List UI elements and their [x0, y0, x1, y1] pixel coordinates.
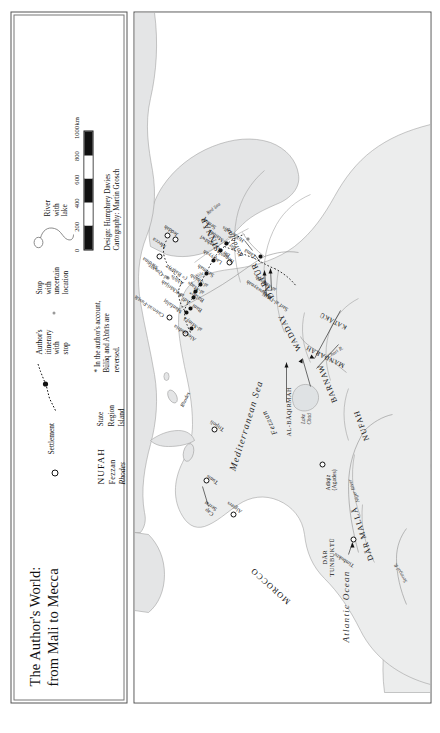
- legend-label-region: Region: [107, 405, 116, 426]
- legend-label-uncertain-stop: Stop with uncertain location: [35, 267, 70, 295]
- legend-sample-region: Fezzan: [107, 459, 116, 484]
- scale-tick-1000: 1000: [72, 125, 79, 138]
- itinerary-dot-manfalut: [184, 310, 188, 314]
- legend-sample-island: Rhodes: [117, 462, 126, 484]
- settlement-circle-icon: [51, 469, 58, 476]
- map-title: The Author's World: from Mali to Mecca: [25, 506, 61, 686]
- itinerary-line-with-stop-icon: [35, 360, 60, 412]
- legend-panel: The Author's World: from Mali to Mecca S…: [10, 11, 127, 703]
- settlement-label-adiqiz: Adīqiz (Agades): [324, 469, 337, 490]
- state-label-al-baqirmah: AL-BĀQIRMAH: [284, 387, 291, 437]
- legend-label-state: State: [96, 411, 105, 426]
- uncertain-dot-icon: [52, 311, 55, 314]
- scale-bar: [83, 130, 93, 250]
- settlement-dot-cairo: [166, 314, 172, 320]
- settlement-dot-timbuktu: [350, 536, 356, 542]
- legend-label-river-lake: River with lake: [43, 200, 69, 216]
- rotated-page-content: The Author's World: from Mali to Mecca S…: [0, 0, 440, 733]
- scale-tick-800: 800: [72, 151, 79, 161]
- legend-label-settlement: Settlement: [47, 422, 56, 454]
- map-page: The Author's World: from Mali to Mecca S…: [0, 0, 440, 733]
- river-with-lake-icon: [31, 220, 78, 250]
- scale-tick-600: 600: [72, 174, 79, 184]
- settlement-dot-medina: [156, 253, 162, 259]
- map-panel: .land{fill:#eceded;stroke:#9a9a9a;stroke…: [133, 11, 431, 703]
- legend-footnote: * In the author's account, Būlāq and Abī…: [93, 242, 121, 372]
- itinerary-dot-tama: [258, 254, 262, 258]
- scale-tick-0: 0: [72, 248, 79, 251]
- scale-tick-200: 200: [72, 221, 79, 231]
- settlement-dot-adiqiz: [319, 461, 325, 467]
- itinerary-dot-hillat-jalis: [246, 237, 249, 240]
- lake-label-chad: Lake Chad: [300, 413, 312, 424]
- legend-sample-state: NUFAH: [95, 448, 105, 484]
- scale-tick-400: 400: [72, 198, 79, 208]
- scale-units: km: [72, 117, 79, 125]
- ocean-label-atlantic: Atlantic Ocean: [340, 570, 350, 642]
- legend-label-island: Island: [117, 408, 126, 426]
- legend-label-itinerary: Author's itinerary with stop: [35, 329, 70, 354]
- map-credits: Design: Humphrey Davies Cartography: Mar…: [103, 168, 122, 250]
